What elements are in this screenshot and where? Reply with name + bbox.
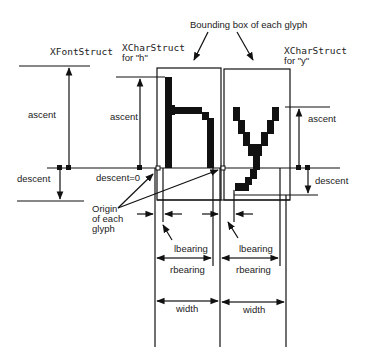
y-width-label: width [242,304,265,315]
font-metrics-diagram: Bounding box of each glyph XFontStruct X… [0,0,370,362]
h-ascent-label: ascent [110,111,138,122]
bounding-box-title: Bounding box of each glyph [190,19,307,30]
h-descent-label: descent=0 [96,172,140,183]
y-rbearing-label: rbearing [236,264,271,275]
h-lbearing-pointer [163,225,172,240]
y-lbearing-pointer [228,222,238,238]
xcharstruct-h-sublabel: for "h" [122,52,148,63]
h-lbearing-label: lbearing [174,243,208,254]
h-ascent-marker [137,165,142,170]
y-descent-label: descent [315,175,349,186]
origin-y-marker [221,166,225,170]
h-width-label: width [175,303,198,314]
origin-h-marker [156,166,160,170]
xcharstruct-y-sublabel: for "y" [284,55,309,66]
y-lbearing-label: lbearing [239,243,273,254]
y-ascent-marker [296,165,301,170]
y-ascent-label: ascent [308,113,336,124]
font-descent-label: descent [17,173,51,184]
glyph-y [233,107,279,191]
bbox-arrow-h [194,32,208,60]
xfontstruct-label: XFontStruct [50,46,113,57]
origin-label-3: glyph [92,223,115,234]
h-rbearing-label: rbearing [170,264,205,275]
font-ascent-label: ascent [28,109,56,120]
y-descent-marker [305,165,310,170]
glyph-h [165,77,214,168]
bbox-arrow-y [237,32,253,60]
